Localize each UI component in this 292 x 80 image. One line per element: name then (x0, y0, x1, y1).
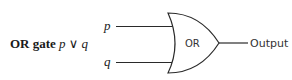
input-q-label: q (104, 54, 111, 69)
or-gate-diagram: p q OR Output (0, 0, 292, 80)
gate-label: OR (185, 38, 200, 49)
output-label: Output (250, 37, 289, 50)
input-p-label: p (103, 18, 111, 33)
